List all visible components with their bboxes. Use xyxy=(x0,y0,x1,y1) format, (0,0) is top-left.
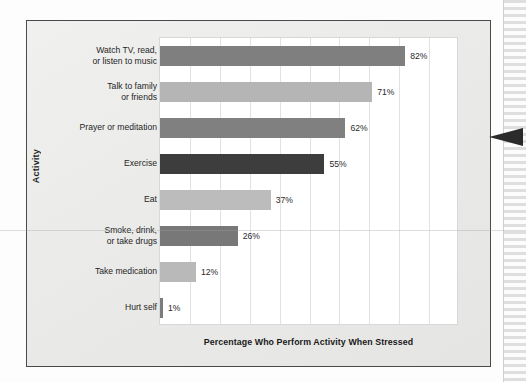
bar-value-label: 37% xyxy=(276,195,293,205)
gridline xyxy=(280,38,281,324)
page-edge-line xyxy=(503,0,504,382)
bar-value-label: 1% xyxy=(168,303,180,313)
bar xyxy=(160,190,271,210)
bar xyxy=(160,262,196,282)
category-label: Eat xyxy=(45,194,157,205)
gridline xyxy=(429,38,430,324)
scan-seam-artifact xyxy=(0,230,526,231)
bar-value-label: 12% xyxy=(201,267,218,277)
bar xyxy=(160,298,163,318)
bar-value-label: 71% xyxy=(377,87,394,97)
page-edge-texture xyxy=(504,0,526,382)
category-label: Take medication xyxy=(45,266,157,277)
bar-value-label: 26% xyxy=(243,231,260,241)
plot-area: 82%71%62%55%37%26%12%1% xyxy=(159,37,458,325)
gridline xyxy=(220,38,221,324)
category-label: Prayer or meditation xyxy=(45,122,157,133)
bar-value-label: 62% xyxy=(350,123,367,133)
gridline xyxy=(250,38,251,324)
bar xyxy=(160,154,324,174)
x-axis-title: Percentage Who Perform Activity When Str… xyxy=(159,337,458,347)
bar xyxy=(160,82,372,102)
category-label: Exercise xyxy=(45,158,157,169)
category-label: Talk to family or friends xyxy=(45,81,157,102)
bar-value-label: 82% xyxy=(410,51,427,61)
bar xyxy=(160,226,238,246)
category-label: Smoke, drink, or take drugs xyxy=(45,225,157,246)
category-label: Watch TV, read, or listen to music xyxy=(45,45,157,66)
gridline xyxy=(369,38,370,324)
category-label-column: Watch TV, read, or listen to musicTalk t… xyxy=(45,37,157,325)
scanned-page: Activity Watch TV, read, or listen to mu… xyxy=(0,0,526,382)
category-label: Hurt self xyxy=(45,302,157,313)
y-axis-title: Activity xyxy=(31,149,45,183)
bar xyxy=(160,46,405,66)
gridline xyxy=(310,38,311,324)
figure-frame: Activity Watch TV, read, or listen to mu… xyxy=(26,20,491,367)
bar xyxy=(160,118,345,138)
gridline xyxy=(399,38,400,324)
gridline xyxy=(339,38,340,324)
bar-value-label: 55% xyxy=(329,159,346,169)
bar-chart: Activity Watch TV, read, or listen to mu… xyxy=(27,21,492,368)
callout-arrow-icon xyxy=(489,128,523,146)
